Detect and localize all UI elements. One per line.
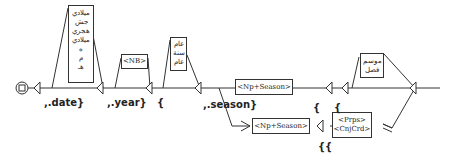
box-line: سنة — [171, 49, 186, 58]
box-line: ميلادي — [69, 36, 93, 45]
output-brace-year: { — [157, 97, 164, 108]
box-line: هجري — [69, 27, 93, 36]
output-brace-1: { — [313, 102, 320, 113]
np-season-bottom-box[interactable]: <Np+Season> — [252, 118, 310, 134]
box-line: <Prps> — [333, 116, 371, 125]
prep-conj-box[interactable]: <Prps> <CnjCrd> — [332, 112, 372, 138]
output-brace-2: { — [334, 102, 341, 113]
box-line: فصل — [361, 66, 383, 75]
np-season-top-box[interactable]: <Np+Season> — [235, 79, 293, 95]
output-season: ,.season} — [203, 99, 257, 110]
box-line: <Np+Season> — [253, 122, 309, 131]
output-date: ,.date} — [44, 97, 84, 108]
date-words-box[interactable]: ميلادي جش هجري ميلادي ه م هـ — [68, 5, 94, 83]
box-line: عام — [171, 40, 186, 49]
nb-box[interactable]: <NB> — [121, 54, 148, 69]
box-line: عام — [171, 58, 186, 67]
output-double-brace: {{ — [318, 141, 332, 152]
box-line: م — [69, 54, 93, 63]
box-line: ه — [69, 45, 93, 54]
box-line: <NB> — [122, 57, 147, 66]
initial-node-inner — [19, 85, 25, 91]
box-line: جش — [69, 18, 93, 27]
season-words-box[interactable]: موسم فصل — [360, 53, 384, 78]
output-year: ,.year} — [107, 97, 147, 108]
box-line: <Np+Season> — [236, 83, 292, 92]
initial-node-outer — [16, 82, 28, 94]
year-words-box[interactable]: عام سنة عام — [170, 37, 187, 71]
box-line: <CnjCrd> — [333, 125, 371, 134]
state-node — [34, 82, 40, 94]
box-line: هـ — [69, 63, 93, 72]
box-line: موسم — [361, 57, 383, 66]
box-line: ميلادي — [69, 9, 93, 18]
